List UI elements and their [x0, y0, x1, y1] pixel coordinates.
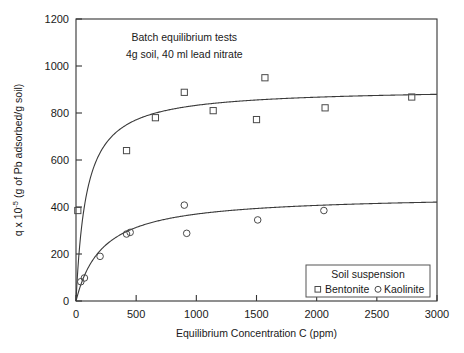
x-tick-label: 500: [127, 308, 145, 320]
data-point-bentonite: [181, 89, 187, 95]
data-point-kaolinite: [321, 207, 328, 214]
data-point-bentonite: [253, 116, 259, 122]
chart-legend: Soil suspensionBentoniteKaolinite: [306, 265, 430, 297]
plot-frame: [76, 19, 437, 301]
x-tick-label: 2000: [304, 308, 328, 320]
x-tick-label: 1500: [244, 308, 268, 320]
y-tick-label: 400: [51, 201, 69, 213]
adsorption-isotherm-chart: 0500100015002000250030000200400600800100…: [0, 0, 464, 353]
data-point-kaolinite: [183, 230, 190, 237]
data-point-kaolinite: [97, 253, 104, 260]
legend-label-kaolinite: Kaolinite: [384, 283, 424, 295]
y-tick-label: 1200: [45, 13, 69, 25]
legend-label-bentonite: Bentonite: [325, 283, 370, 295]
x-tick-label: 3000: [425, 308, 449, 320]
annotations-layer: Batch equilibrium tests4g soil, 40 ml le…: [126, 31, 243, 59]
data-point-bentonite: [322, 105, 328, 111]
y-tick-label: 200: [51, 248, 69, 260]
x-tick-label: 0: [73, 308, 79, 320]
chart-annotation: 4g soil, 40 ml lead nitrate: [126, 48, 243, 60]
data-point-bentonite: [123, 148, 129, 154]
x-tick-label: 1000: [184, 308, 208, 320]
y-tick-label: 600: [51, 154, 69, 166]
chart-annotation: Batch equilibrium tests: [131, 31, 237, 43]
data-point-bentonite: [262, 75, 268, 81]
y-axis-title: q x 10-5 (g of Pb adsorbed/g soil): [11, 84, 25, 237]
data-point-kaolinite: [254, 217, 261, 224]
data-point-bentonite: [210, 108, 216, 114]
y-tick-label: 800: [51, 107, 69, 119]
data-point-kaolinite: [181, 202, 188, 209]
chart-figure: 0500100015002000250030000200400600800100…: [0, 0, 464, 353]
legend-title: Soil suspension: [331, 268, 405, 280]
x-tick-label: 2500: [365, 308, 389, 320]
y-tick-label: 1000: [45, 60, 69, 72]
x-axis-title: Equilibrium Concentration C (ppm): [176, 327, 337, 339]
data-point-bentonite: [152, 115, 158, 121]
y-tick-label: 0: [63, 295, 69, 307]
data-points-layer: [75, 75, 415, 285]
